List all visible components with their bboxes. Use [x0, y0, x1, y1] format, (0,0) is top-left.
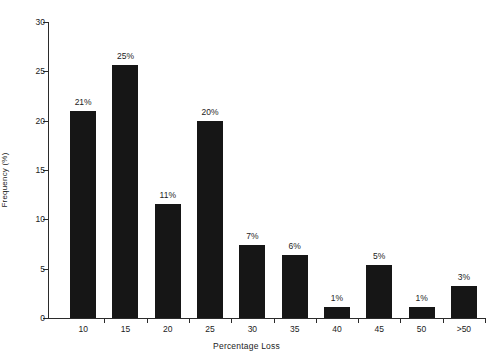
bar	[239, 245, 265, 318]
bar-value-label: 6%	[289, 241, 301, 251]
x-axis-tick-mark	[485, 318, 486, 323]
x-axis-tick-label: 10	[78, 324, 87, 334]
x-axis-tick-mark	[316, 318, 317, 323]
bar-value-label: 20%	[202, 107, 219, 117]
y-axis-tick-label: 10	[36, 214, 45, 224]
plot-area: 051015202530 101520253035404550>50 21%25…	[48, 22, 485, 318]
y-axis-title: Frequency (%)	[0, 152, 9, 207]
x-axis-tick-label: 20	[163, 324, 172, 334]
bar-value-label: 1%	[331, 293, 343, 303]
x-axis-tick-label: 35	[290, 324, 299, 334]
x-axis-tick-label: 40	[332, 324, 341, 334]
bar	[366, 265, 392, 318]
x-axis-tick-label: 45	[375, 324, 384, 334]
bar-value-label: 3%	[458, 272, 470, 282]
x-axis-tick-mark	[358, 318, 359, 323]
bar-value-label: 21%	[75, 97, 92, 107]
bar	[70, 111, 96, 318]
x-axis-line	[48, 318, 485, 319]
bar-value-label: 11%	[160, 190, 176, 200]
y-axis-tick-label: 20	[36, 116, 45, 126]
y-axis-tick-label: 30	[36, 17, 45, 27]
bar	[282, 255, 308, 318]
x-axis-tick-mark	[147, 318, 148, 323]
x-axis-tick-mark	[189, 318, 190, 323]
y-axis-line	[48, 22, 49, 318]
y-axis-tick-label: 25	[36, 66, 45, 76]
x-axis-tick-label: 15	[121, 324, 130, 334]
bar-value-label: 7%	[246, 231, 258, 241]
bar	[155, 204, 181, 318]
x-axis-tick-mark	[231, 318, 232, 323]
x-axis-tick-mark	[400, 318, 401, 323]
bar	[409, 307, 435, 318]
bar	[197, 121, 223, 318]
x-axis-tick-mark	[274, 318, 275, 323]
bar-value-label: 1%	[415, 293, 427, 303]
x-axis-tick-mark	[443, 318, 444, 323]
x-axis-tick-mark	[104, 318, 105, 323]
x-axis-tick-label: 50	[417, 324, 426, 334]
x-axis-tick-label: >50	[457, 324, 471, 334]
bar	[451, 286, 477, 318]
bar-value-label: 25%	[117, 51, 134, 61]
x-axis-tick-label: 30	[248, 324, 257, 334]
y-axis-tick-label: 0	[40, 313, 45, 323]
bar	[112, 65, 138, 318]
bar	[324, 307, 350, 318]
x-axis-title: Percentage Loss	[0, 341, 493, 351]
y-axis-tick-label: 5	[40, 264, 45, 274]
x-axis-tick-label: 25	[205, 324, 214, 334]
bar-chart: Frequency (%) Percentage Loss 0510152025…	[0, 0, 493, 361]
bar-value-label: 5%	[373, 251, 385, 261]
y-axis-tick-label: 15	[36, 165, 45, 175]
